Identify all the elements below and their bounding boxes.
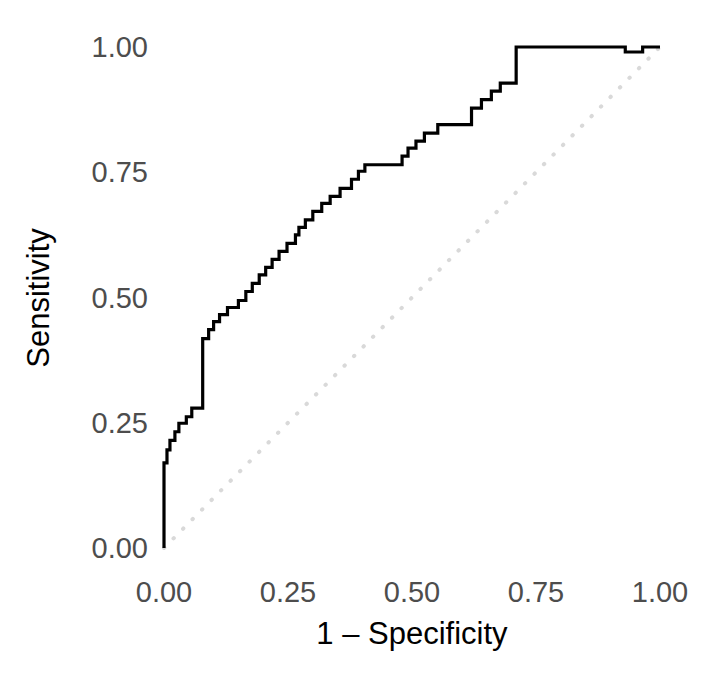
roc-curve-figure: 1.00 0.75 0.50 0.25 0.00 0.00 0.25 0.50 … [0,0,705,684]
x-axis-title: 1 – Specificity [316,618,507,649]
chance-diagonal-reference-line [164,47,660,548]
y-axis-title: Sensitivity [23,228,54,368]
x-tick-label-0: 0.00 [136,578,192,607]
y-tick-label-1: 0.25 [0,409,148,438]
x-tick-label-1: 0.25 [260,578,316,607]
x-tick-label-2: 0.50 [384,578,440,607]
y-tick-label-0: 0.00 [0,534,148,563]
plot-area [0,0,705,684]
y-tick-label-3: 0.75 [0,158,148,187]
reference-line-group [164,47,660,548]
x-tick-label-4: 1.00 [632,578,688,607]
x-tick-label-3: 0.75 [508,578,564,607]
y-tick-label-4: 1.00 [0,33,148,62]
